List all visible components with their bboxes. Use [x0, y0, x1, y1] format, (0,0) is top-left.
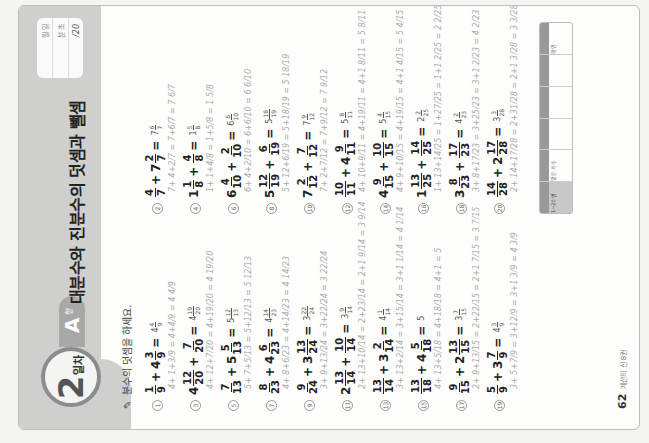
problem-expression: 1 9 + 4 3 9 = 4 4 9	[144, 322, 167, 395]
numerator: 7	[452, 309, 460, 315]
numerator: 18	[262, 109, 270, 119]
numerator: 14	[486, 181, 498, 197]
answer-whole: 3	[455, 316, 464, 321]
numerator: 2	[220, 146, 232, 155]
numerator: 22	[300, 306, 308, 316]
denominator: 13	[232, 341, 243, 355]
answer: 3 22 24	[300, 306, 315, 321]
denominator: 7	[156, 189, 167, 196]
problem-expression: 1 1 8 + 4 8 = 1 5 8	[182, 125, 205, 198]
numerator: 1	[144, 385, 156, 394]
problem-number: 18	[456, 203, 467, 214]
equals-sign: =	[187, 141, 201, 151]
problems-left-column: 1 1 9 + 4 3 9 = 4 4 9	[144, 221, 524, 411]
denominator: 23	[460, 175, 471, 189]
numerator: 10	[372, 142, 384, 158]
numerator: 8	[338, 112, 346, 118]
answer-fraction: 6 7	[148, 125, 163, 131]
denominator: 9	[156, 352, 167, 359]
addend-a-fraction: 9 15	[448, 380, 471, 394]
answer-table-cell	[540, 118, 572, 150]
addend-b-whole: 4	[263, 356, 277, 364]
equals-sign: =	[377, 326, 391, 336]
addend-a-fraction: 2 12	[296, 175, 319, 189]
equals-sign: =	[149, 338, 163, 348]
numerator: 12	[182, 370, 194, 386]
numerator: 7	[296, 146, 308, 155]
answer: 5 8 11	[338, 111, 353, 124]
answer-check-table: 1~20 번맞은 개수확인	[539, 22, 573, 214]
denominator: 11	[346, 111, 353, 119]
denominator: 14	[346, 306, 353, 314]
numerator: 7	[486, 351, 498, 360]
numerator: 4	[220, 177, 232, 186]
page-footer: 62 계산의 신 8권	[616, 350, 629, 409]
numerator: 7	[182, 341, 194, 350]
answer: 4 14 23	[262, 308, 277, 323]
plus-sign: +	[263, 160, 277, 170]
numerator: 17	[486, 140, 498, 156]
problem-expression: 7 13 + 5 5 13 = 5 12 13	[220, 308, 243, 395]
denominator: 18	[422, 339, 433, 353]
problem-item: 12 10 11 + 4 9 11 = 5 8 11	[334, 24, 372, 214]
denominator: 14	[384, 308, 391, 316]
numerator: 6	[148, 125, 156, 131]
handwritten-work: 1+ 13+14/25 = 1+27/25 = 1+1 2/25 = 2 2/2…	[434, 5, 443, 192]
problem-expression: 8 23 + 4 6 23 = 4 14 23	[258, 308, 281, 395]
numerator: 12	[224, 308, 232, 318]
addend-a-fraction: 13 14	[372, 378, 395, 394]
problem-item: 11 2 13 14 + 10 14 = 3 9 14	[334, 221, 372, 411]
numerator: 1	[182, 180, 194, 189]
numerator: 4	[376, 112, 384, 118]
denominator: 20	[194, 307, 201, 315]
addend-b-fraction: 7 12	[296, 144, 319, 158]
equals-sign: =	[339, 129, 353, 139]
equals-sign: =	[263, 129, 277, 139]
answer-fraction: 4 15	[376, 111, 391, 119]
answer-fraction: 7 15	[452, 308, 467, 316]
answer-whole: 5	[417, 316, 426, 321]
problem-expression: 4 9 15 + 10 15 = 5 4 15	[372, 111, 395, 198]
plus-sign: +	[339, 168, 353, 178]
plus-sign: +	[453, 367, 467, 377]
numerator: 13	[296, 339, 308, 355]
answer-fraction: 8 11	[338, 111, 353, 119]
answer-table-text: 확인	[549, 23, 556, 54]
numerator: 13	[410, 378, 422, 394]
answer-fraction: 9 14	[338, 306, 353, 314]
book-name: 계산의 신 8권	[618, 350, 628, 389]
answer: 6 6 10	[224, 113, 239, 126]
numerator: 14	[262, 308, 270, 318]
problem-number: 7	[266, 400, 277, 411]
problem-number: 9	[304, 400, 315, 411]
problem-number: 19	[494, 400, 505, 411]
day-badge: 2 일차	[41, 347, 101, 407]
addend-b-fraction: 17 28	[486, 140, 509, 156]
problem-number: 1	[152, 400, 163, 411]
numerator: 2	[414, 110, 422, 116]
answer: 4 1 14	[376, 308, 391, 321]
problem-number: 15	[418, 400, 429, 411]
answer: 3 7 15	[452, 308, 467, 321]
denominator: 8	[194, 181, 205, 188]
answer-fraction: 5 8	[186, 125, 201, 131]
numerator: 12	[258, 173, 270, 189]
problem-expression: 13 18 + 4 5 18 = 5	[410, 316, 433, 395]
denominator: 15	[460, 308, 467, 316]
denominator: 25	[422, 109, 429, 117]
problem-number: 20	[494, 203, 505, 214]
answer-whole: 5	[265, 119, 274, 124]
answer-whole: 3	[303, 316, 312, 321]
denominator: 19	[270, 174, 281, 188]
denominator: 7	[156, 126, 163, 130]
problem-number: 17	[456, 400, 467, 411]
answer-table-cell	[540, 54, 572, 86]
addend-b-whole: 2	[491, 157, 505, 165]
problem-expression: 13 14 + 3 2 14 = 4 1 14	[372, 308, 395, 395]
problem-item: 16 1 13 25 + 14 25 = 2 2 25	[410, 24, 448, 214]
problem-expression: 9 24 + 3 13 24 = 3 22 24	[296, 306, 319, 395]
addend-b-fraction: 9 11	[334, 142, 357, 156]
numerator: 9	[300, 114, 308, 120]
equals-sign: =	[187, 326, 201, 336]
answer-fraction: 1 14	[376, 308, 391, 316]
